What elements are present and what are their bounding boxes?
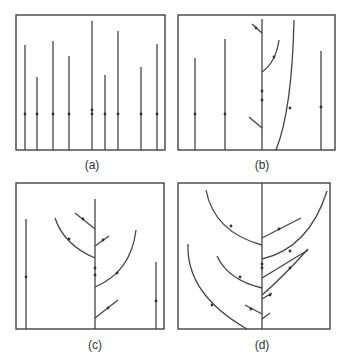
arrow-marker-icon <box>82 218 85 221</box>
trajectory-line <box>262 218 301 238</box>
arrow-marker-icon <box>278 228 281 231</box>
arrow-marker-icon <box>107 307 110 310</box>
arrow-marker-icon <box>91 113 94 116</box>
arrow-marker-icon <box>320 106 323 109</box>
arrow-marker-icon <box>255 27 258 30</box>
arrow-marker-icon <box>94 274 97 277</box>
arrow-marker-icon <box>289 107 292 110</box>
arrow-marker-icon <box>24 113 27 116</box>
panel-label: (a) <box>85 158 100 172</box>
trajectory-line <box>276 20 294 150</box>
trajectory-line <box>262 313 270 319</box>
arrow-marker-icon <box>261 99 264 102</box>
panel-c <box>16 183 164 329</box>
arrow-marker-icon <box>289 267 292 270</box>
panel-frame <box>178 183 330 329</box>
arrow-marker-icon <box>102 239 105 242</box>
arrow-marker-icon <box>68 238 71 241</box>
arrow-marker-icon <box>224 113 227 116</box>
panel-label: (b) <box>255 158 270 172</box>
trajectory-line <box>245 305 262 314</box>
trajectory-line <box>262 40 279 72</box>
arrow-marker-icon <box>261 263 264 266</box>
arrow-marker-icon <box>140 113 143 116</box>
arrow-marker-icon <box>273 56 276 59</box>
panel-a <box>16 15 165 150</box>
arrow-marker-icon <box>116 272 119 275</box>
trajectory-line <box>206 190 262 245</box>
panel-label: (c) <box>88 338 102 352</box>
arrow-marker-icon <box>91 109 94 112</box>
panel-frame <box>16 15 165 150</box>
trajectory-line <box>249 117 262 128</box>
panel-b <box>178 15 335 150</box>
trajectory-line <box>95 230 136 287</box>
arrow-marker-icon <box>230 225 233 228</box>
panel-frame <box>178 15 335 150</box>
arrow-marker-icon <box>155 300 158 303</box>
arrow-marker-icon <box>194 113 197 116</box>
trajectory-line <box>262 191 327 259</box>
arrow-marker-icon <box>104 113 107 116</box>
arrow-marker-icon <box>261 267 264 270</box>
arrow-marker-icon <box>25 276 28 279</box>
arrow-marker-icon <box>211 304 214 307</box>
arrow-marker-icon <box>289 250 292 253</box>
arrow-marker-icon <box>117 113 120 116</box>
trajectory-line <box>95 236 109 246</box>
arrow-marker-icon <box>269 294 272 297</box>
arrow-marker-icon <box>36 113 39 116</box>
arrow-marker-icon <box>250 308 253 311</box>
trajectory-line <box>217 256 262 288</box>
arrow-marker-icon <box>94 267 97 270</box>
arrow-marker-icon <box>52 113 55 116</box>
arrow-marker-icon <box>68 113 71 116</box>
trajectory-line <box>75 213 95 229</box>
arrow-marker-icon <box>261 90 264 93</box>
arrow-marker-icon <box>239 276 242 279</box>
arrow-marker-icon <box>156 113 159 116</box>
panel-d <box>178 183 330 329</box>
trajectory-line <box>95 300 118 318</box>
figure-canvas <box>0 0 344 357</box>
trajectory-line <box>262 249 308 295</box>
panel-label: (d) <box>255 338 270 352</box>
